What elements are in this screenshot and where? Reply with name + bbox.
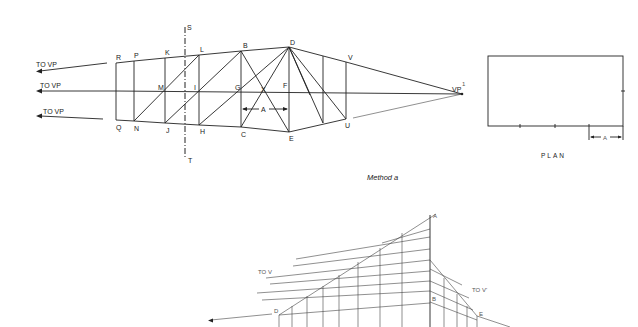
point-label-I: I	[194, 84, 196, 91]
point-label-E: E	[289, 135, 294, 142]
arrowhead-icon	[36, 89, 42, 94]
method-a-figure: TO VP TO VP TO VP	[36, 24, 466, 182]
diagonal-AD	[279, 214, 436, 315]
point-label-Q: Q	[116, 124, 122, 132]
figure-caption: Method a	[367, 173, 398, 182]
point-label-J: J	[166, 127, 170, 134]
arrowhead-icon	[36, 69, 42, 74]
dimension-label-A: A	[261, 106, 266, 113]
perspective-diagram: TO VP TO VP TO VP	[0, 0, 638, 327]
bottom-figure: B A B D E TO V TO V'	[208, 213, 510, 327]
arrow-label-3: TO VP	[43, 108, 64, 115]
plan-view: A PLAN	[488, 56, 625, 159]
point-label-M: M	[158, 84, 164, 91]
label-S: S	[187, 24, 192, 31]
right-face-lines	[430, 260, 510, 327]
vp-prime-label: 1	[462, 81, 466, 87]
point-label-L: L	[200, 46, 204, 53]
point-label-C: C	[241, 131, 246, 138]
point-label-B: B	[432, 296, 436, 302]
point-label-X: X	[261, 86, 266, 93]
vanishing-point	[461, 93, 464, 96]
point-label-A: A	[433, 213, 437, 219]
arrow-label-1: TO VP	[36, 61, 57, 68]
point-label-P: P	[134, 52, 139, 59]
to-v-prime-label: TO V'	[472, 287, 487, 293]
point-label-K: K	[165, 49, 170, 56]
point-label-N: N	[134, 125, 139, 132]
point-label-H: H	[200, 128, 205, 135]
vp-label: VP	[452, 86, 462, 93]
plan-title: PLAN	[541, 152, 566, 159]
to-v-label: TO V	[258, 269, 272, 275]
left-verticals	[279, 233, 402, 327]
point-label-G: G	[235, 84, 240, 91]
point-label-E: E	[479, 311, 483, 317]
point-label-B: B	[243, 42, 248, 49]
point-label-V: V	[348, 54, 353, 61]
arrowhead-icon	[208, 319, 213, 323]
point-label-D: D	[274, 308, 279, 314]
point-label-D: D	[290, 39, 295, 46]
point-label-R: R	[116, 54, 121, 61]
left-face-lines	[257, 229, 430, 315]
point-label-U: U	[345, 122, 350, 129]
label-T: T	[188, 157, 193, 164]
plan-dimension-label: A	[603, 135, 607, 141]
arrowhead-icon	[36, 114, 42, 119]
plan-rectangle	[488, 56, 623, 126]
arrow-label-2: TO VP	[40, 82, 61, 89]
point-label-F: F	[283, 82, 287, 89]
